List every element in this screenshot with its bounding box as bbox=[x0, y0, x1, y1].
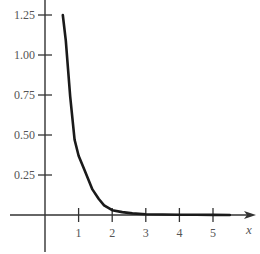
x-tick-label: 1 bbox=[76, 226, 82, 240]
x-axis-ticks: 12345 bbox=[76, 208, 216, 240]
x-tick-label: 3 bbox=[143, 226, 149, 240]
y-tick-label: 1.25 bbox=[14, 8, 35, 22]
y-tick-label: 0.75 bbox=[14, 88, 35, 102]
data-curve bbox=[63, 15, 230, 215]
y-axis-ticks: 0.250.500.751.001.25 bbox=[14, 8, 52, 182]
y-tick-label: 0.25 bbox=[14, 168, 35, 182]
x-axis-label: x bbox=[245, 222, 252, 237]
y-tick-label: 0.50 bbox=[14, 128, 35, 142]
line-chart: 0.250.500.751.001.25 12345 x bbox=[0, 0, 260, 254]
y-tick-label: 1.00 bbox=[14, 48, 35, 62]
x-tick-label: 5 bbox=[210, 226, 216, 240]
x-tick-label: 2 bbox=[109, 226, 115, 240]
x-tick-label: 4 bbox=[176, 226, 182, 240]
